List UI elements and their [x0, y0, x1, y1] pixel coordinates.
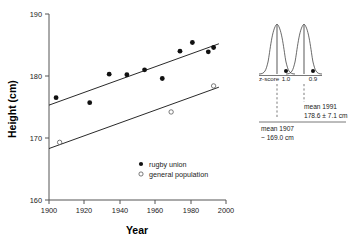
data-point-rugby-union [54, 95, 59, 100]
zscore-dot-right [311, 69, 315, 73]
plot-data-layer [49, 40, 219, 148]
data-point-rugby-union [107, 72, 112, 77]
height-vs-year-scatter-chart: Height (cm) 160 170 180 190 1900 1920 [0, 0, 354, 241]
legend-label-general-population: general population [149, 170, 208, 179]
legend-marker-general-population [139, 172, 143, 176]
data-point-rugby-union [160, 76, 165, 81]
y-tick-label-170: 170 [30, 134, 42, 143]
data-point-rugby-union [142, 67, 147, 72]
x-tick-label-2000: 2000 [218, 206, 234, 215]
y-axis-title-text: Height (cm) [6, 80, 18, 138]
data-point-general-population [57, 140, 61, 144]
data-point-rugby-union [87, 100, 92, 105]
zscore-value-left: 1.0 [282, 75, 291, 82]
x-tick-label-1920: 1920 [76, 206, 92, 215]
annotation-1991-line2: 178.6 ± 7.1 cm [304, 112, 348, 119]
y-tick-label-180: 180 [30, 72, 42, 81]
x-axis-title-text: Year [126, 224, 148, 236]
x-tick-label-1980: 1980 [183, 206, 199, 215]
data-point-rugby-union [178, 49, 183, 54]
chart-figure: Height (cm) 160 170 180 190 1900 1920 [0, 0, 354, 241]
y-axis-title: Height (cm) [6, 80, 18, 138]
annotation-1991-line1: mean 1991 [304, 103, 337, 110]
inset-distribution-diagram: z-score 1.0 0.9 mean 1991 178.6 ± 7.1 cm… [259, 24, 348, 141]
zscore-axis-label: z-score [259, 75, 280, 82]
y-tick-label-160: 160 [30, 196, 42, 205]
legend-marker-rugby-union [139, 162, 143, 166]
x-tick-label-1960: 1960 [147, 206, 163, 215]
data-point-rugby-union [211, 45, 216, 50]
annotation-1907-line2: ~ 169.0 cm [261, 134, 294, 141]
data-point-rugby-union [190, 40, 195, 45]
y-tick-label-190: 190 [30, 10, 42, 19]
x-tick-label-1940: 1940 [112, 206, 128, 215]
data-point-general-population [169, 110, 173, 114]
x-axis-ticks: 1900 1920 1940 1960 1980 2000 [41, 200, 234, 215]
zscore-dot-left [284, 69, 288, 73]
x-tick-label-1900: 1900 [41, 206, 57, 215]
legend-label-rugby-union: rugby union [149, 160, 187, 169]
zscore-value-right: 0.9 [309, 75, 318, 82]
data-point-general-population [211, 84, 215, 88]
data-point-rugby-union [124, 72, 129, 77]
y-axis-ticks: 160 170 180 190 [30, 10, 49, 205]
annotation-1907-line1: mean 1907 [261, 125, 294, 132]
data-point-rugby-union [206, 49, 211, 54]
chart-legend: rugby union general population [139, 160, 208, 179]
